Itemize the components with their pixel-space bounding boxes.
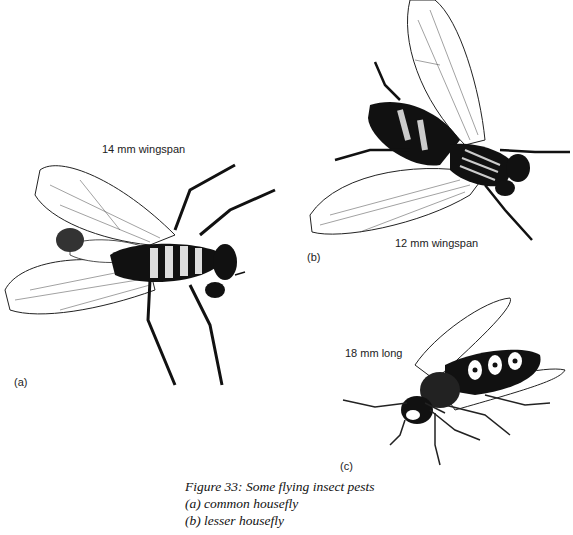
lesser-housefly-illustration: [300, 0, 573, 245]
panel-b-measurement: 12 mm wingspan: [395, 237, 478, 249]
caption-line-b: (b) lesser housefly: [185, 512, 375, 529]
caption-title: Figure 33: Some flying insect pests: [185, 478, 375, 495]
panel-a-measurement: 14 mm wingspan: [102, 143, 185, 155]
caption-line-a: (a) common housefly: [185, 495, 375, 512]
panel-c-tag: (c): [340, 460, 353, 472]
panel-c-measurement: 18 mm long: [345, 347, 402, 359]
wasp-illustration: [335, 295, 573, 475]
panel-a-tag: (a): [14, 376, 27, 388]
housefly-illustration: [0, 150, 290, 395]
figure-caption: Figure 33: Some flying insect pests (a) …: [185, 478, 375, 529]
panel-b-tag: (b): [307, 251, 320, 263]
